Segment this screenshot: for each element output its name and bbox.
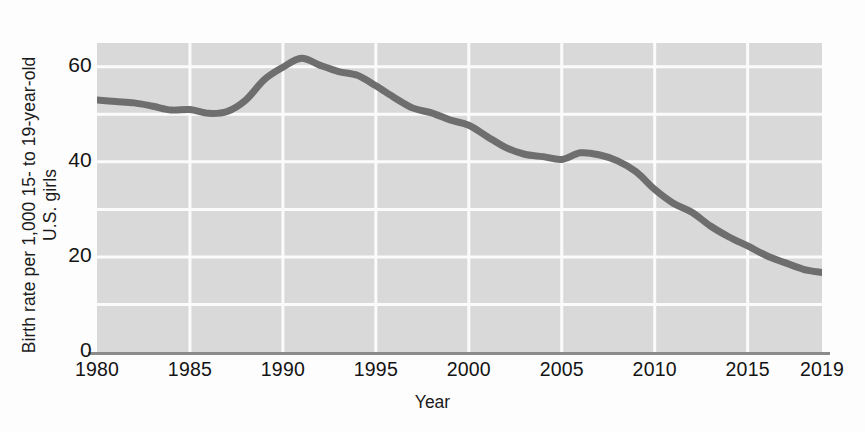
x-tick-label: 2015 bbox=[708, 358, 788, 381]
x-tick-label: 1990 bbox=[243, 358, 323, 381]
plot-area bbox=[97, 43, 822, 352]
x-axis-line bbox=[88, 352, 830, 355]
y-tick-label: 20 bbox=[46, 243, 92, 267]
y-axis-title-line-1: Birth rate per 1,000 15- to 19-year-old bbox=[19, 57, 40, 354]
chart-figure: Birth rate per 1,000 15- to 19-year-old … bbox=[0, 0, 865, 432]
x-tick-label: 2005 bbox=[522, 358, 602, 381]
y-axis-title-line-2: U.S. girls bbox=[40, 169, 61, 241]
x-tick-label: 1985 bbox=[150, 358, 230, 381]
x-tick-label: 1980 bbox=[57, 358, 137, 381]
y-tick-label: 40 bbox=[46, 148, 92, 172]
x-tick-label: 2010 bbox=[615, 358, 695, 381]
x-tick-label: 2019 bbox=[782, 358, 862, 381]
data-line-series bbox=[97, 43, 822, 352]
x-tick-label: 1995 bbox=[336, 358, 416, 381]
x-axis-title: Year bbox=[0, 392, 865, 413]
x-tick-label: 2000 bbox=[429, 358, 509, 381]
y-tick-label: 60 bbox=[46, 53, 92, 77]
y-axis-title: Birth rate per 1,000 15- to 19-year-old … bbox=[10, 40, 70, 370]
